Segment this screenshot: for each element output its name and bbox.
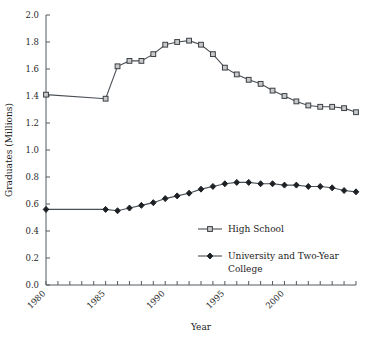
- data-point: [282, 182, 288, 188]
- x-tick-label: 1990: [144, 288, 166, 310]
- data-point: [127, 59, 132, 64]
- legend-label: High School: [228, 224, 284, 234]
- data-point: [306, 183, 312, 189]
- data-point: [258, 181, 264, 187]
- y-tick-label: 0.4: [25, 226, 39, 236]
- y-tick-label: 1.4: [25, 91, 39, 101]
- data-point: [174, 193, 180, 199]
- data-point: [234, 72, 239, 77]
- data-point: [187, 38, 192, 43]
- y-tick-label: 0.8: [25, 172, 39, 182]
- data-point: [329, 185, 335, 191]
- series-2: [43, 179, 359, 213]
- data-point: [294, 182, 300, 188]
- data-point: [306, 103, 311, 108]
- graduates-line-chart: 0.00.20.40.60.81.01.21.41.61.82.0 198019…: [0, 0, 379, 346]
- x-tick-label: 1995: [204, 288, 226, 310]
- data-point: [222, 65, 227, 70]
- y-tick-label: 0.2: [25, 253, 39, 263]
- data-point: [211, 52, 216, 57]
- x-tick-label: 1985: [85, 288, 107, 310]
- data-point: [222, 181, 228, 187]
- y-tick-label: 1.8: [25, 37, 39, 47]
- data-point: [234, 179, 240, 185]
- data-point: [282, 94, 287, 99]
- data-point: [198, 186, 204, 192]
- data-point: [115, 208, 121, 214]
- data-point: [103, 206, 109, 212]
- data-point: [354, 110, 359, 115]
- legend-marker: [207, 253, 213, 259]
- data-point: [270, 181, 276, 187]
- x-tick-label: 1980: [25, 288, 47, 310]
- data-point: [163, 42, 168, 47]
- data-point: [127, 205, 133, 211]
- x-axis: 19801985199019952000: [25, 281, 356, 311]
- data-point: [246, 77, 251, 82]
- data-point: [151, 200, 157, 206]
- data-point: [318, 104, 323, 109]
- series-1: [44, 38, 359, 114]
- y-axis: 0.00.20.40.60.81.01.21.41.61.82.0: [25, 10, 50, 290]
- chart-container: 0.00.20.40.60.81.01.21.41.61.82.0 198019…: [0, 0, 379, 346]
- y-tick-label: 1.6: [25, 64, 39, 74]
- y-tick-label: 2.0: [25, 10, 39, 20]
- x-tick-label: 2000: [264, 288, 286, 310]
- legend-marker: [208, 227, 213, 232]
- data-point: [258, 81, 263, 86]
- data-point: [162, 196, 168, 202]
- data-series-group: [43, 38, 359, 214]
- series-line: [46, 41, 356, 113]
- chart-legend: High SchoolUniversity and Two-YearColleg…: [198, 224, 340, 274]
- data-point: [294, 99, 299, 104]
- data-point: [199, 42, 204, 47]
- data-point: [341, 188, 347, 194]
- data-point: [210, 183, 216, 189]
- data-point: [139, 202, 145, 208]
- data-point: [270, 88, 275, 93]
- data-point: [175, 40, 180, 45]
- data-point: [342, 106, 347, 111]
- x-axis-title: Year: [190, 322, 212, 332]
- data-point: [186, 190, 192, 196]
- y-tick-label: 1.2: [25, 118, 39, 128]
- y-tick-label: 1.0: [25, 145, 39, 155]
- data-point: [115, 64, 120, 69]
- data-point: [317, 183, 323, 189]
- legend-label: University and Two-Year: [228, 251, 340, 261]
- y-tick-label: 0.0: [25, 280, 39, 290]
- data-point: [44, 92, 49, 97]
- data-point: [330, 104, 335, 109]
- data-point: [43, 206, 49, 212]
- data-point: [353, 189, 359, 195]
- data-point: [246, 179, 252, 185]
- legend-label-line2: College: [228, 264, 262, 274]
- data-point: [103, 96, 108, 101]
- y-axis-title: Graduates (Millions): [4, 103, 14, 197]
- y-tick-label: 0.6: [25, 199, 39, 209]
- data-point: [139, 59, 144, 64]
- data-point: [151, 52, 156, 57]
